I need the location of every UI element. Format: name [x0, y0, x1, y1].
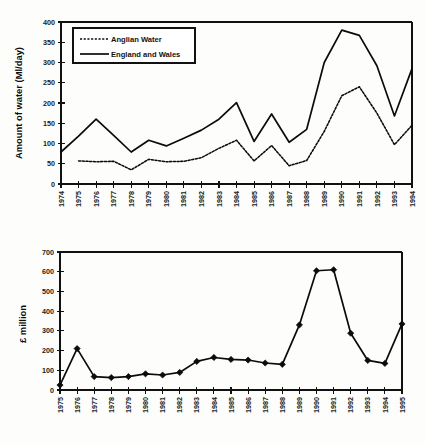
data-point-marker [331, 267, 337, 273]
data-point-marker [382, 360, 388, 366]
x-tick-label: 1976 [73, 397, 82, 413]
x-tick-label: 1975 [74, 191, 83, 207]
x-tick-label: 1987 [285, 191, 294, 207]
expenditure-chart: 0100200300400500600700197519761977197819… [0, 232, 425, 445]
data-point-marker [228, 356, 234, 362]
data-point-marker [125, 373, 131, 379]
data-point-marker [211, 354, 217, 360]
x-tick-label: 1978 [127, 191, 136, 207]
x-tick-label: 1978 [107, 397, 116, 413]
data-point-marker [160, 372, 166, 378]
x-tick-label: 1980 [162, 191, 171, 207]
y-tick-label: 200 [43, 99, 55, 108]
x-tick-label: 1989 [295, 397, 304, 413]
data-point-marker [57, 382, 63, 388]
y-tick-label: 700 [42, 248, 54, 257]
series-line-0 [79, 87, 412, 170]
series-line-0 [60, 270, 402, 385]
water-abstraction-chart: 0501001502002503003504001974197519761977… [0, 0, 425, 232]
x-tick-label: 1991 [355, 191, 364, 207]
x-tick-label: 1984 [210, 397, 219, 413]
x-tick-label: 1992 [346, 397, 355, 413]
x-tick-label: 1993 [363, 397, 372, 413]
x-tick-label: 1982 [197, 191, 206, 207]
x-tick-label: 1984 [232, 191, 241, 207]
y-tick-label: 250 [43, 78, 55, 87]
x-tick-label: 1979 [124, 397, 133, 413]
x-tick-label: 1983 [192, 397, 201, 413]
x-tick-label: 1976 [92, 191, 101, 207]
y-tick-label: 200 [42, 346, 54, 355]
y-tick-label: 400 [43, 18, 55, 27]
x-tick-label: 1985 [227, 397, 236, 413]
y-tick-label: 300 [43, 58, 55, 67]
y-tick-label: 100 [42, 366, 54, 375]
x-tick-label: 1993 [390, 191, 399, 207]
data-point-marker [262, 360, 268, 366]
y-tick-label: 600 [42, 267, 54, 276]
x-tick-label: 1980 [141, 397, 150, 413]
x-tick-label: 1979 [144, 191, 153, 207]
x-tick-label: 1986 [244, 397, 253, 413]
y-tick-label: 350 [43, 38, 55, 47]
x-tick-label: 1982 [175, 397, 184, 413]
y-tick-label: 0 [51, 180, 55, 189]
x-tick-label: 1994 [381, 397, 390, 413]
x-tick-label: 1983 [215, 191, 224, 207]
y-tick-label: 50 [47, 159, 55, 168]
data-point-marker [313, 268, 319, 274]
y-tick-label: 300 [42, 326, 54, 335]
data-point-marker [142, 371, 148, 377]
y-tick-label: 400 [42, 307, 54, 316]
legend-label-1: England and Wales [111, 50, 180, 59]
expenditure-chart-svg: 0100200300400500600700197519761977197819… [0, 232, 425, 445]
data-point-marker [399, 321, 405, 327]
data-point-marker [296, 322, 302, 328]
x-tick-label: 1977 [90, 397, 99, 413]
legend-label-0: Anglian Water [111, 35, 162, 44]
x-tick-label: 1987 [261, 397, 270, 413]
y-tick-label: 500 [42, 287, 54, 296]
y-tick-label: 0 [50, 386, 54, 395]
y-tick-label: 100 [43, 139, 55, 148]
figure-page: 0501001502002503003504001974197519761977… [0, 0, 425, 445]
x-tick-label: 1985 [250, 191, 259, 207]
x-tick-label: 1989 [320, 191, 329, 207]
data-point-marker [245, 357, 251, 363]
water-abstraction-chart-svg: 0501001502002503003504001974197519761977… [0, 0, 425, 232]
y-axis-title: £ million [17, 305, 28, 343]
x-tick-label: 1981 [158, 397, 167, 413]
x-tick-label: 1975 [56, 397, 65, 413]
y-tick-label: 150 [43, 119, 55, 128]
x-tick-label: 1991 [329, 397, 338, 413]
x-tick-label: 1988 [302, 191, 311, 207]
x-tick-label: 1992 [373, 191, 382, 207]
x-tick-label: 1990 [312, 397, 321, 413]
x-tick-label: 1981 [179, 191, 188, 207]
data-point-marker [108, 374, 114, 380]
x-tick-label: 1995 [398, 397, 407, 413]
data-point-marker [279, 361, 285, 367]
y-axis-title: Amount of water (Ml/day) [13, 47, 24, 159]
x-tick-label: 1974 [57, 191, 66, 207]
x-tick-label: 1988 [278, 397, 287, 413]
x-tick-label: 1977 [109, 191, 118, 207]
x-tick-label: 1990 [337, 191, 346, 207]
x-tick-label: 1994 [408, 191, 417, 207]
x-tick-label: 1986 [267, 191, 276, 207]
